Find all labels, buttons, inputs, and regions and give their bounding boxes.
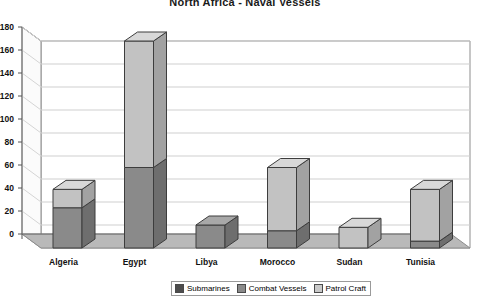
bar-group-sudan	[339, 218, 381, 248]
plot-back-wall	[41, 41, 470, 248]
y-tick-label-100: 100	[0, 114, 14, 124]
legend-entry-combat-vessels: Combat Vessels	[237, 284, 307, 293]
legend-entry-submarines: Submarines	[175, 284, 230, 293]
legend-entry-patrol-craft: Patrol Craft	[314, 284, 366, 293]
y-tick-label-40: 40	[0, 183, 14, 193]
chart-legend: Submarines Combat Vessels Patrol Craft	[171, 281, 371, 296]
y-tick-label-160: 160	[0, 45, 14, 55]
bar-group-egypt	[125, 32, 167, 248]
y-tick-label-180: 180	[0, 22, 14, 32]
legend-swatch-icon-combat-vessels	[237, 284, 246, 293]
y-tick-label-80: 80	[0, 137, 14, 147]
bar-group-morocco	[268, 159, 310, 249]
x-category-label-tunisia: Tunisia	[385, 257, 456, 267]
bar-group-algeria	[53, 180, 95, 248]
plot-left-wall	[22, 27, 41, 248]
y-tick-label-60: 60	[0, 160, 14, 170]
bar-group-libya	[196, 216, 238, 248]
x-category-label-libya: Libya	[171, 257, 242, 267]
x-category-label-egypt: Egypt	[99, 257, 170, 267]
y-axis	[18, 27, 22, 234]
legend-swatch-icon-patrol-craft	[314, 284, 323, 293]
x-category-label-sudan: Sudan	[314, 257, 385, 267]
y-tick-label-20: 20	[0, 206, 14, 216]
bar-group-tunisia	[411, 180, 453, 248]
legend-swatch-icon-submarines	[175, 284, 184, 293]
y-tick-label-140: 140	[0, 68, 14, 78]
legend-label-patrol-craft: Patrol Craft	[326, 285, 366, 293]
y-tick-label-120: 120	[0, 91, 14, 101]
x-category-label-morocco: Morocco	[242, 257, 313, 267]
chart-container: North Africa - Naval Vessels	[0, 0, 490, 303]
y-tick-label-0: 0	[0, 229, 14, 239]
legend-label-combat-vessels: Combat Vessels	[249, 285, 307, 293]
legend-label-submarines: Submarines	[187, 285, 230, 293]
x-category-label-algeria: Algeria	[28, 257, 99, 267]
